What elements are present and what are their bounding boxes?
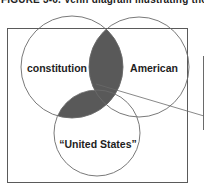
venn-diagram: constitution American “United States” [0,0,204,192]
label-united-states: “United States” [59,138,137,150]
label-american: American [130,62,178,74]
label-constitution: constitution [27,62,87,74]
